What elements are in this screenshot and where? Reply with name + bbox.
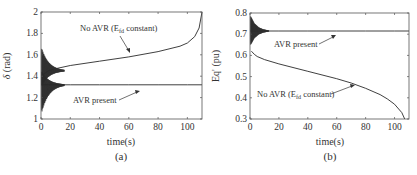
panel-b-arrow-no-avr xyxy=(331,84,355,94)
panel-b-ticks: 0204060801000.30.40.50.60.70.8 xyxy=(235,8,409,132)
panel-a-arrow-no-avr xyxy=(120,36,130,53)
panel-a-arrow-avr xyxy=(119,90,140,100)
y-tick-label: 0.7 xyxy=(235,29,247,39)
y-tick-label: 1 xyxy=(33,114,38,124)
x-tick-label: 60 xyxy=(124,122,134,132)
panel-a-rotor-angle-chart: 02040608010011.21.41.61.82 δ (rad) time(… xyxy=(1,7,202,163)
y-tick-label: 1.4 xyxy=(26,71,38,81)
panel-b-arrow-avr xyxy=(319,35,336,44)
panel-b-caption: (b) xyxy=(324,150,337,163)
x-tick-label: 20 xyxy=(274,122,284,132)
panel-b-eq-prime-chart: 0204060801000.30.40.50.60.70.8 Eq' (pu) … xyxy=(210,8,409,163)
x-tick-label: 80 xyxy=(153,122,163,132)
x-tick-label: 100 xyxy=(180,122,195,132)
x-tick-label: 100 xyxy=(387,122,402,132)
panel-a-x-axis-label: time(s) xyxy=(107,136,135,148)
y-tick-label: 0.8 xyxy=(235,8,247,18)
panel-a-caption: (a) xyxy=(115,150,128,163)
y-tick-label: 1.8 xyxy=(26,28,38,38)
x-tick-label: 0 xyxy=(39,122,44,132)
y-tick-label: 0.4 xyxy=(235,93,247,103)
x-tick-label: 40 xyxy=(95,122,105,132)
panel-a-series-lines xyxy=(41,12,202,85)
x-tick-label: 0 xyxy=(248,122,253,132)
y-tick-label: 2 xyxy=(33,7,38,17)
panel-a-annotation-avr: AVR present xyxy=(73,95,117,105)
panel-b-axes-frame xyxy=(250,13,409,119)
x-tick-label: 80 xyxy=(361,122,371,132)
x-tick-label: 60 xyxy=(332,122,342,132)
series-line xyxy=(251,51,404,119)
figure: 02040608010011.21.41.61.82 δ (rad) time(… xyxy=(0,0,417,175)
y-tick-label: 0.5 xyxy=(235,72,247,82)
y-tick-label: 1.6 xyxy=(26,50,38,60)
panel-b-oscillation-envelope xyxy=(250,16,268,45)
panel-a-oscillation-envelope xyxy=(41,49,64,112)
panel-b-x-axis-label: time(s) xyxy=(316,136,344,148)
series-line xyxy=(41,12,202,76)
panel-a-y-axis-label: δ (rad) xyxy=(1,53,13,80)
y-tick-label: 0.3 xyxy=(235,114,247,124)
panel-a-annotation-no-avr: No AVR (Efd constant) xyxy=(80,23,157,34)
x-tick-label: 20 xyxy=(66,122,76,132)
y-tick-label: 0.6 xyxy=(235,50,247,60)
panel-b-annotation-no-avr: No AVR (Efd constant) xyxy=(257,89,334,100)
oscillation-trace xyxy=(41,72,64,112)
panel-b-annotation-avr: AVR present xyxy=(274,39,318,49)
y-tick-label: 1.2 xyxy=(26,93,38,103)
oscillation-trace xyxy=(250,16,268,45)
x-tick-label: 40 xyxy=(303,122,313,132)
panel-b-y-axis-label: Eq' (pu) xyxy=(210,50,222,82)
